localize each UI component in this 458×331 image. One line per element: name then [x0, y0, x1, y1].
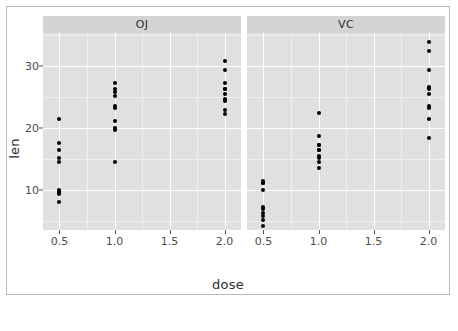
major-gridline-vertical: [170, 33, 171, 230]
facet-panel-container: OJ0.51.01.52.0VC0.51.01.52.0: [43, 16, 445, 252]
data-point: [223, 68, 227, 72]
major-gridline-horizontal: [43, 190, 241, 191]
data-point: [427, 40, 431, 44]
data-point: [261, 207, 265, 211]
x-tick-label: 2.0: [414, 235, 444, 248]
plot-panel-vc: [247, 33, 445, 230]
data-point: [113, 126, 117, 130]
plot-panel-oj: [43, 33, 241, 230]
minor-gridline-vertical: [197, 33, 198, 230]
data-point: [57, 200, 61, 204]
x-axis-ticks: 0.51.01.52.0: [247, 230, 445, 252]
facet-strip-label: OJ: [43, 16, 241, 33]
minor-gridline-vertical: [346, 33, 347, 230]
minor-gridline-vertical: [87, 33, 88, 230]
data-point: [223, 92, 227, 96]
data-point: [223, 97, 227, 101]
major-gridline-horizontal: [247, 190, 445, 191]
x-tick-label: 1.5: [155, 235, 185, 248]
minor-gridline-vertical: [401, 33, 402, 230]
data-point: [223, 112, 227, 116]
scatter-plot: 102030 OJ0.51.01.52.0VC0.51.01.52.0 dose…: [7, 7, 449, 294]
facet-column-vc: VC0.51.01.52.0: [247, 16, 445, 252]
x-tick-mark: [374, 230, 375, 234]
data-point: [317, 148, 321, 152]
data-point: [261, 211, 265, 215]
data-point: [317, 134, 321, 138]
x-tick-mark: [59, 230, 60, 234]
major-gridline-horizontal: [247, 66, 445, 67]
data-point: [317, 154, 321, 158]
data-point: [113, 160, 117, 164]
data-point: [427, 49, 431, 53]
minor-gridline-vertical: [142, 33, 143, 230]
data-point: [317, 160, 321, 164]
data-point: [223, 59, 227, 63]
major-gridline-vertical: [319, 33, 320, 230]
x-tick-label: 1.5: [359, 235, 389, 248]
x-axis-ticks: 0.51.01.52.0: [43, 230, 241, 252]
data-point: [113, 94, 117, 98]
x-tick-mark: [115, 230, 116, 234]
facet-strip-label: VC: [247, 16, 445, 33]
data-point: [223, 87, 227, 91]
y-axis-title: len: [7, 129, 22, 169]
data-point: [427, 106, 431, 110]
x-tick-mark: [170, 230, 171, 234]
figure-frame: 102030 OJ0.51.01.52.0VC0.51.01.52.0 dose…: [6, 6, 450, 295]
data-point: [57, 160, 61, 164]
data-point: [261, 181, 265, 185]
data-point: [261, 188, 265, 192]
x-axis-title: dose: [7, 277, 449, 292]
x-tick-label: 0.5: [44, 235, 74, 248]
data-point: [317, 143, 321, 147]
data-point: [427, 92, 431, 96]
data-point: [317, 111, 321, 115]
major-gridline-horizontal: [247, 128, 445, 129]
data-point: [57, 141, 61, 145]
x-tick-label: 0.5: [248, 235, 278, 248]
data-point: [427, 136, 431, 140]
data-point: [113, 119, 117, 123]
x-tick-label: 2.0: [210, 235, 240, 248]
facet-column-oj: OJ0.51.01.52.0: [43, 16, 241, 252]
major-gridline-horizontal: [43, 66, 241, 67]
y-tick-label: 30: [13, 60, 39, 73]
data-point: [427, 85, 431, 89]
y-tick-label: 10: [13, 184, 39, 197]
x-tick-mark: [225, 230, 226, 234]
major-gridline-horizontal: [43, 128, 241, 129]
data-point: [223, 81, 227, 85]
x-tick-label: 1.0: [304, 235, 334, 248]
minor-gridline-vertical: [291, 33, 292, 230]
major-gridline-vertical: [429, 33, 430, 230]
x-tick-mark: [263, 230, 264, 234]
data-point: [427, 117, 431, 121]
data-point: [261, 224, 265, 228]
x-tick-mark: [319, 230, 320, 234]
data-point: [427, 68, 431, 72]
data-point: [223, 108, 227, 112]
major-gridline-vertical: [374, 33, 375, 230]
data-point: [57, 148, 61, 152]
data-point: [317, 166, 321, 170]
data-point: [113, 81, 117, 85]
major-gridline-vertical: [263, 33, 264, 230]
data-point: [57, 117, 61, 121]
data-point: [113, 104, 117, 108]
x-tick-label: 1.0: [100, 235, 130, 248]
x-tick-mark: [429, 230, 430, 234]
